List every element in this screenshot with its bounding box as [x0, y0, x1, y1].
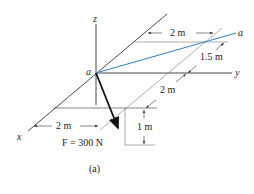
- force-arrow: [96, 73, 118, 128]
- point-a-end-label: a: [238, 28, 243, 38]
- force-label: F = 300 N: [62, 138, 103, 148]
- dim-top-2m-label: 2 m: [170, 28, 185, 38]
- dim-1.5m-upper: [216, 43, 224, 50]
- point-a-origin-label: a: [86, 67, 91, 77]
- dim-1.5m-lower: [188, 66, 196, 73]
- dim-bottom-2m-label: 2 m: [56, 121, 71, 131]
- x-axis-label: x: [17, 132, 21, 142]
- y-axis-label: y: [235, 68, 239, 78]
- far-diagonal-edge: [100, 28, 222, 130]
- dim-diag-2m-lower: [146, 100, 156, 108]
- dim-1m-label: 1 m: [137, 122, 152, 132]
- dim-diag-2m-upper: [176, 74, 186, 82]
- z-axis-label: z: [93, 14, 97, 24]
- dim-diag-2m-label: 2 m: [160, 85, 175, 95]
- figure-canvas: [0, 0, 254, 194]
- figure-caption: (a): [89, 164, 100, 174]
- dim-1.5m-label: 1.5 m: [200, 52, 223, 62]
